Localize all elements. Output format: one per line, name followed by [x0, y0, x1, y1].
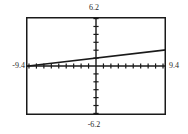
y-max-label: 6.2 [0, 3, 188, 12]
x-min-label: -9.4 [1, 61, 25, 70]
plot-svg [26, 17, 166, 115]
y-min-label: -6.2 [0, 120, 188, 129]
plot-area [26, 17, 166, 115]
x-max-label: 9.4 [169, 61, 188, 70]
graphing-calculator-screen: 6.2 -9.4 9.4 -6.2 [0, 0, 188, 134]
